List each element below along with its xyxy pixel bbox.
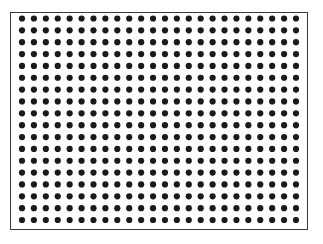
dot (43, 27, 49, 33)
dot (126, 39, 132, 45)
dot (245, 87, 251, 93)
dot (186, 63, 192, 69)
dot (174, 51, 180, 57)
dot (150, 122, 156, 128)
dot (186, 98, 192, 104)
dot (233, 87, 239, 93)
dot (78, 181, 84, 187)
dot (174, 15, 180, 21)
dot (257, 98, 263, 104)
dot (19, 63, 25, 69)
dot (114, 217, 120, 223)
dot (19, 181, 25, 187)
dot (138, 193, 144, 199)
dot (174, 63, 180, 69)
dot (281, 15, 287, 21)
dot (114, 98, 120, 104)
dot (138, 39, 144, 45)
dot (281, 134, 287, 140)
dot (31, 217, 37, 223)
dot (126, 63, 132, 69)
dot (114, 205, 120, 211)
dot (269, 169, 275, 175)
dot (138, 122, 144, 128)
dot (138, 51, 144, 57)
dot (31, 134, 37, 140)
dot (186, 39, 192, 45)
dot (114, 122, 120, 128)
dot (150, 181, 156, 187)
dot (174, 122, 180, 128)
dot (126, 98, 132, 104)
dot (114, 63, 120, 69)
dot (138, 217, 144, 223)
dot (293, 205, 299, 211)
dot (221, 193, 227, 199)
dot (150, 205, 156, 211)
dot (67, 63, 73, 69)
dot (150, 39, 156, 45)
dot-grid (0, 0, 323, 244)
dot (210, 51, 216, 57)
dot (78, 51, 84, 57)
dot (90, 27, 96, 33)
dot (281, 205, 287, 211)
dot (162, 205, 168, 211)
dot (114, 146, 120, 152)
dot (67, 134, 73, 140)
dot (102, 217, 108, 223)
dot (281, 146, 287, 152)
dot (210, 63, 216, 69)
dot (257, 39, 263, 45)
dot (102, 15, 108, 21)
dot (19, 134, 25, 140)
dot (162, 122, 168, 128)
dot (19, 39, 25, 45)
dot (78, 110, 84, 116)
dot (174, 181, 180, 187)
dot (90, 122, 96, 128)
dot (43, 51, 49, 57)
dot (67, 110, 73, 116)
dot (269, 39, 275, 45)
dot (257, 158, 263, 164)
dot (31, 98, 37, 104)
dot (31, 122, 37, 128)
dot (210, 75, 216, 81)
dot (293, 98, 299, 104)
dot (293, 15, 299, 21)
dot (281, 158, 287, 164)
dot (221, 146, 227, 152)
dot (198, 169, 204, 175)
dot (293, 51, 299, 57)
dot (19, 87, 25, 93)
dot (55, 87, 61, 93)
dot (162, 217, 168, 223)
dot (150, 63, 156, 69)
dot (269, 27, 275, 33)
dot (55, 134, 61, 140)
dot (138, 15, 144, 21)
dot (281, 51, 287, 57)
dot (150, 98, 156, 104)
dot (31, 39, 37, 45)
dot (150, 217, 156, 223)
dot (138, 205, 144, 211)
dot (257, 110, 263, 116)
dot (186, 181, 192, 187)
dot (90, 110, 96, 116)
dot (67, 39, 73, 45)
dot (174, 134, 180, 140)
dot (174, 98, 180, 104)
dot (31, 15, 37, 21)
dot (19, 217, 25, 223)
dot (245, 181, 251, 187)
dot (210, 134, 216, 140)
dot (257, 169, 263, 175)
dot (43, 110, 49, 116)
dot (162, 169, 168, 175)
dot (293, 158, 299, 164)
dot (43, 15, 49, 21)
dot (293, 122, 299, 128)
dot (221, 181, 227, 187)
